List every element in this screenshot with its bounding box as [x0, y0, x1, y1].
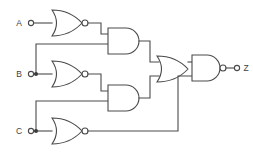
gate-or1-body[interactable]	[157, 56, 188, 82]
gate-or1[interactable]	[157, 56, 188, 82]
input-terminal-c[interactable]	[28, 128, 33, 133]
circuit-schematic-svg: A B C Z	[0, 0, 253, 153]
gate-and2[interactable]	[108, 85, 139, 111]
gate-nor2-inversion-bubble	[82, 71, 88, 77]
gate-nor1-body[interactable]	[52, 10, 82, 36]
wire-and2-out-to-or1	[139, 76, 159, 98]
gate-nor3[interactable]	[52, 118, 88, 144]
input-terminal-b[interactable]	[28, 71, 33, 76]
gate-nor1[interactable]	[52, 10, 88, 36]
input-terminal-a[interactable]	[28, 20, 33, 25]
gate-nor2[interactable]	[52, 61, 88, 87]
output-terminal-z[interactable]	[234, 65, 239, 70]
input-terminal-c-circle[interactable]	[28, 128, 33, 133]
gate-and1[interactable]	[108, 28, 139, 54]
output-terminal-z-circle[interactable]	[234, 65, 239, 70]
input-terminal-b-circle[interactable]	[28, 71, 33, 76]
gate-nor3-body[interactable]	[52, 118, 82, 144]
gate-nand1[interactable]	[192, 55, 226, 81]
junction-dot-c	[34, 129, 38, 133]
wire-nor2-out-to-and2	[88, 74, 108, 91]
gate-and1-body[interactable]	[108, 28, 139, 54]
wire-and1-out-to-or1	[139, 41, 159, 62]
logic-circuit-diagram: A B C Z	[0, 0, 253, 153]
gate-and2-body[interactable]	[108, 85, 139, 111]
junction-dot-b	[34, 72, 38, 76]
input-label-a: A	[16, 18, 22, 28]
output-label-z: Z	[243, 63, 248, 73]
wire-nor1-out-to-and1	[88, 23, 108, 34]
input-label-c: C	[16, 126, 22, 136]
gate-nor2-body[interactable]	[52, 61, 82, 87]
gate-nor1-inversion-bubble	[82, 20, 88, 26]
input-terminal-a-circle[interactable]	[28, 20, 33, 25]
gate-nand1-body[interactable]	[192, 55, 220, 81]
gate-nor3-inversion-bubble	[82, 128, 88, 134]
input-label-b: B	[16, 69, 22, 79]
gate-nand1-inversion-bubble	[220, 65, 226, 71]
wire-nor3-out-to-nand1	[88, 76, 192, 131]
